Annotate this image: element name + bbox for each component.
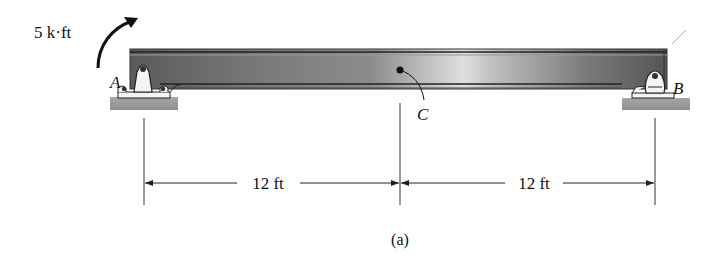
support-a-label: A — [109, 73, 121, 92]
beam-end-mark — [672, 30, 686, 44]
dimension-1-label: 12 ft — [252, 174, 284, 193]
ground-b — [622, 98, 690, 110]
ground-a — [110, 97, 178, 110]
moment-label: 5 k·ft — [34, 23, 72, 42]
beam-diagram: 5 k·ft A B C — [0, 0, 722, 262]
support-b-label: B — [673, 79, 684, 98]
figure-caption: (a) — [391, 231, 409, 249]
point-c-label: C — [417, 105, 429, 124]
dimension-2-label: 12 ft — [518, 174, 550, 193]
